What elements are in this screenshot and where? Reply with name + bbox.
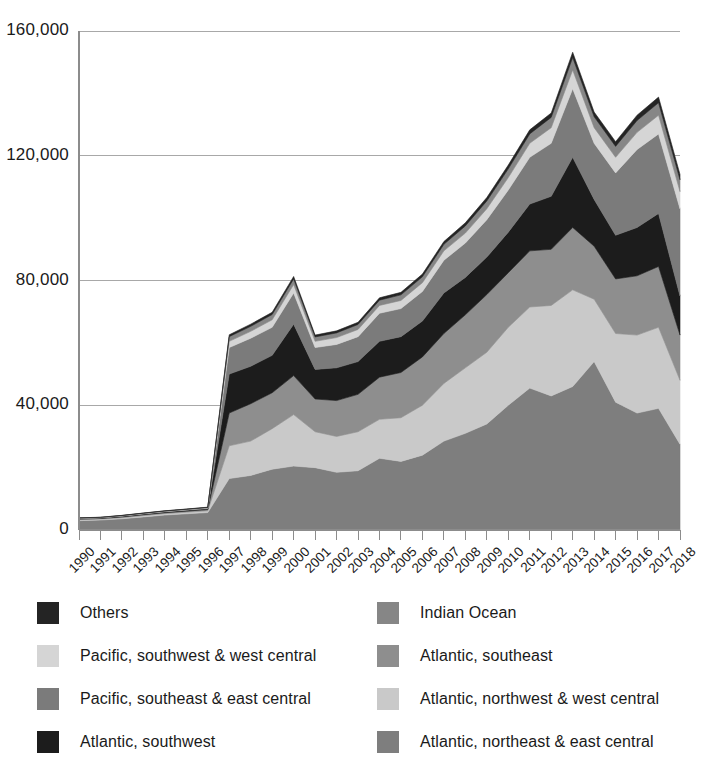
y-axis-tick-label: 120,000 xyxy=(6,145,69,165)
legend-label: Atlantic, northeast & east central xyxy=(420,733,654,751)
y-axis-tick-label: 160,000 xyxy=(6,20,69,40)
legend-label: Pacific, southwest & west central xyxy=(80,647,316,665)
legend-swatch-icon xyxy=(37,731,59,753)
y-axis-tick-label: 40,000 xyxy=(16,394,69,414)
legend-swatch-icon xyxy=(37,602,59,624)
legend-swatch-icon xyxy=(37,688,59,710)
legend-swatch-icon xyxy=(377,645,399,667)
stacked-area-chart: 040,00080,000120,000160,000 199019911992… xyxy=(0,0,701,780)
legend-item[interactable]: Atlantic, southwest xyxy=(37,731,215,753)
legend-item[interactable]: Atlantic, northwest & west central xyxy=(377,688,659,710)
legend-swatch-icon xyxy=(377,731,399,753)
legend-label: Atlantic, southwest xyxy=(80,733,215,751)
legend-swatch-icon xyxy=(377,602,399,624)
legend-label: Atlantic, northwest & west central xyxy=(420,690,659,708)
legend-item[interactable]: Pacific, southeast & east central xyxy=(37,688,311,710)
chart-plot-area xyxy=(0,0,701,600)
chart-legend: OthersIndian OceanPacific, southwest & w… xyxy=(0,600,701,780)
legend-swatch-icon xyxy=(37,645,59,667)
legend-item[interactable]: Atlantic, northeast & east central xyxy=(377,731,654,753)
legend-item[interactable]: Others xyxy=(37,602,129,624)
legend-label: Others xyxy=(80,604,129,622)
y-axis-tick-label: 0 xyxy=(59,519,69,539)
legend-item[interactable]: Pacific, southwest & west central xyxy=(37,645,316,667)
legend-label: Atlantic, southeast xyxy=(420,647,553,665)
y-axis-tick-label: 80,000 xyxy=(16,270,69,290)
legend-item[interactable]: Atlantic, southeast xyxy=(377,645,553,667)
legend-label: Pacific, southeast & east central xyxy=(80,690,311,708)
legend-swatch-icon xyxy=(377,688,399,710)
legend-label: Indian Ocean xyxy=(420,604,516,622)
legend-item[interactable]: Indian Ocean xyxy=(377,602,516,624)
